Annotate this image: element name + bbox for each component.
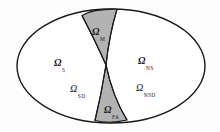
region-label-omega-sd: ΩSD <box>70 79 85 98</box>
omega-subscript: FA <box>112 114 119 120</box>
omega-subscript: S <box>62 67 65 73</box>
omega-symbol: Ω <box>136 82 143 93</box>
omega-symbol: Ω <box>54 57 61 68</box>
omega-subscript: NS <box>146 65 154 71</box>
region-label-omega-ns: ΩNS <box>138 51 153 70</box>
figure-root: ΩM ΩS ΩNS ΩSD ΩNSD ΩFA <box>0 0 220 132</box>
omega-subscript: SD <box>78 93 86 99</box>
omega-symbol: Ω <box>104 104 111 115</box>
omega-symbol: Ω <box>92 26 99 37</box>
omega-symbol: Ω <box>70 83 77 94</box>
region-label-omega-fa: ΩFA <box>104 100 119 119</box>
region-label-omega-s: ΩS <box>54 53 65 72</box>
region-label-omega-nsd: ΩNSD <box>136 78 155 97</box>
region-label-omega-m: ΩM <box>92 22 105 41</box>
omega-subscript: M <box>100 36 105 42</box>
omega-subscript: NSD <box>144 92 156 98</box>
omega-symbol: Ω <box>138 55 145 66</box>
